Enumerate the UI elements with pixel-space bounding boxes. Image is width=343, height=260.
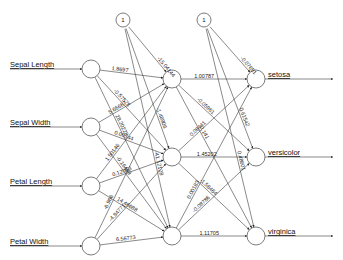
hidden-node-3	[163, 227, 181, 245]
weight-label: 1.00787	[194, 73, 214, 79]
input-label: Sepal Width	[10, 118, 50, 127]
output-label: virginica	[268, 227, 296, 236]
output-label: versicolor	[268, 148, 301, 157]
neural-network-diagram: 1.8697-0.5757828.202285.666670.00344-0.1…	[0, 0, 343, 260]
weight-label: -0.07651	[239, 55, 258, 75]
input-label: Petal Width	[10, 237, 48, 246]
input-node-3	[82, 177, 100, 195]
input-node-4	[82, 237, 100, 255]
weight-label: -4.84771	[107, 202, 126, 222]
weight-label: 0.61542	[238, 107, 251, 128]
input-label: Petal Length	[10, 177, 52, 186]
weight-label: -0.05961	[196, 96, 216, 115]
weight-label: 1.45202	[197, 151, 217, 157]
edge-input1-hidden1	[100, 70, 163, 78]
hidden-node-2	[163, 148, 181, 166]
edge-bias1-hidden1	[129, 27, 166, 72]
input-node-1	[82, 60, 100, 78]
input-label: Sepal Length	[10, 60, 54, 69]
output-node-2	[247, 148, 265, 166]
weight-label: -1.58464	[199, 177, 219, 196]
input-node-2	[82, 118, 100, 136]
output-label: setosa	[268, 70, 291, 79]
output-node-3	[247, 227, 265, 245]
weight-label: -1.48906	[155, 107, 168, 129]
weight-label: -0.08786	[191, 194, 211, 213]
weight-label: -6.966	[102, 194, 114, 211]
edge-input2-hidden3	[96, 134, 166, 229]
edge-bias2-output1	[210, 27, 250, 72]
weight-label: 1.11705	[199, 230, 218, 236]
